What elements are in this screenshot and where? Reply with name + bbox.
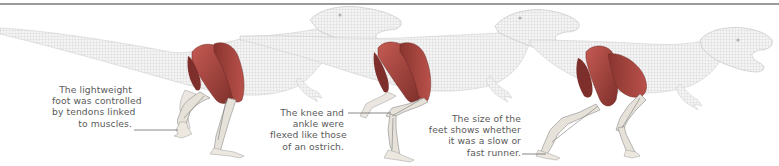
caption-line: to muscles.: [52, 118, 132, 129]
caption-feet-size: The size of the feet shows whether it wa…: [424, 113, 521, 158]
dinosaur-illustration: [0, 0, 779, 166]
caption-line: feet shows whether: [424, 124, 521, 135]
dinosaur-3: [530, 28, 772, 161]
caption-line: The size of the: [424, 113, 521, 124]
dinosaur-1-arm: [296, 78, 322, 102]
caption-line: ankle were: [270, 118, 344, 129]
caption-foot-tendons: The lightweight foot was controlled by t…: [52, 84, 132, 129]
caption-line: by tendons linked: [52, 106, 132, 117]
caption-line: The lightweight: [52, 84, 132, 95]
caption-line: flexed like those: [270, 129, 344, 140]
caption-line: foot was controlled: [52, 95, 132, 106]
dinosaur-2-shin: [388, 114, 400, 156]
caption-line: fast runner.: [424, 147, 521, 158]
dinosaur-3-front-foot: [624, 150, 640, 158]
caption-line: of an ostrich.: [270, 141, 344, 152]
dinosaur-3-arm: [676, 84, 702, 110]
caption-line: The knee and: [270, 107, 344, 118]
dinosaur-1-front-foot: [210, 148, 244, 158]
caption-knee-ankle: The knee and ankle were flexed like thos…: [270, 107, 344, 152]
caption-line: it was a slow or: [424, 135, 521, 146]
